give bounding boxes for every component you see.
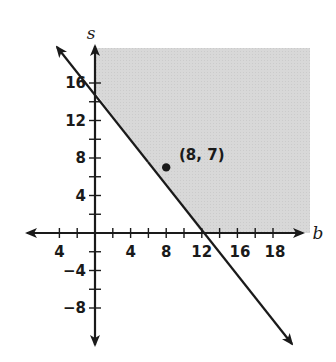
y-tick-label-8: 8 — [76, 149, 86, 167]
y-tick-label-neg8: −8 — [63, 299, 86, 317]
inequality-graph: 4 4 8 12 16 18 16 12 8 4 −4 −8 s b (8, 7… — [0, 0, 336, 362]
x-tick-label-neg4: 4 — [54, 243, 64, 261]
x-tick-label-16: 16 — [230, 243, 251, 261]
y-axis-label: s — [87, 23, 96, 43]
test-point — [162, 163, 170, 171]
x-tick-label-18: 18 — [265, 243, 286, 261]
x-tick-label-4: 4 — [125, 243, 135, 261]
x-axis-label: b — [313, 223, 324, 243]
x-tick-label-8: 8 — [161, 243, 171, 261]
y-tick-label-16: 16 — [65, 74, 86, 92]
test-point-label: (8, 7) — [179, 146, 225, 164]
y-tick-label-12: 12 — [65, 112, 86, 130]
shaded-solution-region — [95, 48, 310, 233]
x-tick-label-12: 12 — [191, 243, 212, 261]
y-tick-label-4: 4 — [76, 187, 86, 205]
y-tick-label-neg4: −4 — [63, 262, 86, 280]
